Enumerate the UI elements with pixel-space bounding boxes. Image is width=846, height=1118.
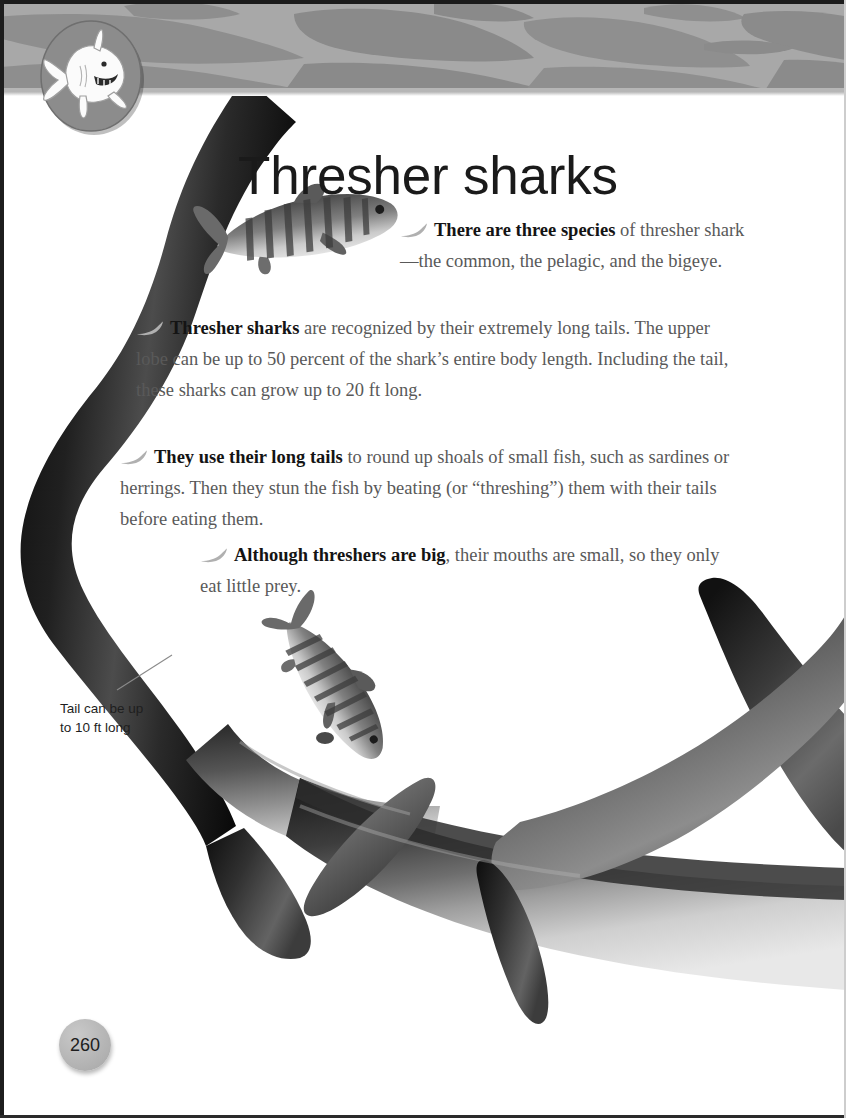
bullet-species: There are three species of thresher shar… xyxy=(400,215,750,277)
shark-fin-bullet-icon xyxy=(136,321,164,336)
shark-fin-bullet-icon xyxy=(120,450,148,465)
lead-in-species: There are three species xyxy=(434,220,615,240)
lead-in-mouths: Although threshers are big xyxy=(234,545,446,565)
shark-fin-bullet-icon xyxy=(400,223,428,238)
page-edge-left xyxy=(0,0,4,1118)
bullet-mouths: Although threshers are big, their mouths… xyxy=(200,540,745,602)
lead-in-long-tails: Thresher sharks xyxy=(170,318,299,338)
page-title: Thresher sharks xyxy=(238,149,618,202)
page-number: 260 xyxy=(59,1019,111,1071)
bullet-hunting: They use their long tails to round up sh… xyxy=(120,442,750,535)
shark-mascot-badge xyxy=(36,18,148,136)
shark-fin-bullet-icon xyxy=(200,548,228,563)
book-page: Thresher sharks There are three species … xyxy=(0,0,846,1118)
lead-in-hunting: They use their long tails xyxy=(154,447,343,467)
bullet-long-tails: Thresher sharks are recognized by their … xyxy=(136,313,746,406)
page-edge-top xyxy=(0,0,846,4)
tail-length-caption: Tail can be up to 10 ft long xyxy=(60,699,143,737)
